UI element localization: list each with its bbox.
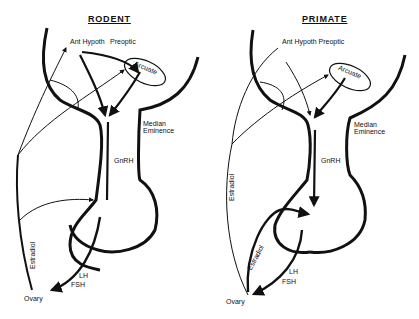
label-ant-hypoth-preoptic: Ant Hypoth Preoptic xyxy=(282,38,344,46)
label-preoptic: Preoptic xyxy=(110,38,136,46)
label-fsh: FSH xyxy=(282,278,296,286)
label-eminence: Eminence xyxy=(354,128,385,136)
label-lh: LH xyxy=(79,272,88,280)
label-gnrh: GnRH xyxy=(114,157,133,165)
label-ant-hypoth: Ant Hypoth xyxy=(70,38,105,46)
label-ovary: Ovary xyxy=(226,298,245,306)
panel-title: RODENT xyxy=(88,15,131,23)
label-estradiol: Estradiol xyxy=(29,242,37,269)
label-estradiol-outer: Estradiol xyxy=(228,174,236,201)
label-eminence: Eminence xyxy=(143,127,174,135)
primate-panel: PRIMATE Ant Hypoth Preoptic Arcuate Medi… xyxy=(210,0,419,319)
rodent-panel: RODENT Ant Hypoth Preoptic Arcuate Media… xyxy=(0,0,210,319)
label-lh: LH xyxy=(289,268,298,276)
label-gnrh: GnRH xyxy=(321,157,340,165)
label-ovary: Ovary xyxy=(24,295,43,303)
panel-title: PRIMATE xyxy=(302,15,347,23)
label-fsh: FSH xyxy=(71,281,85,289)
rodent-diagram xyxy=(0,0,210,319)
right-outline xyxy=(70,57,198,252)
primate-diagram xyxy=(210,0,419,319)
